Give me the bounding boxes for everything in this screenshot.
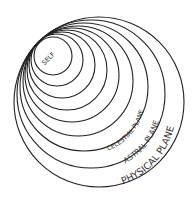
planes-diagram: SELF CELESTIAL PLANE ASTRAL PLANE PHYSIC… — [0, 0, 194, 204]
label-self: SELF — [40, 50, 57, 67]
